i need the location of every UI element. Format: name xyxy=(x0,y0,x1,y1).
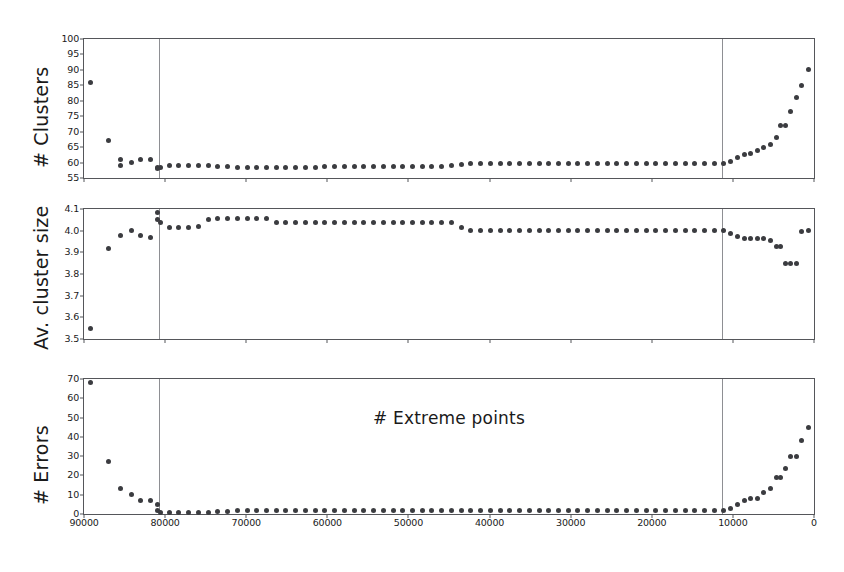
data-point xyxy=(225,509,230,514)
data-point xyxy=(371,164,376,169)
data-point xyxy=(235,216,240,221)
reference-vline xyxy=(722,39,723,178)
y-tick-label: 3.8 xyxy=(64,269,84,279)
y-axis-label-clusters: # Clusters xyxy=(30,67,52,168)
data-point xyxy=(459,162,464,167)
data-point xyxy=(391,508,396,513)
data-point xyxy=(167,163,172,168)
data-point xyxy=(186,163,191,168)
data-point xyxy=(468,228,473,233)
data-point xyxy=(371,508,376,513)
data-point xyxy=(429,508,434,513)
data-point xyxy=(755,236,760,241)
data-point xyxy=(129,228,134,233)
data-point xyxy=(332,164,337,169)
data-point xyxy=(634,228,639,233)
x-tick-mark xyxy=(165,178,166,182)
x-tick-mark xyxy=(732,178,733,182)
data-point xyxy=(778,475,783,480)
y-tick-label: 70 xyxy=(67,374,84,384)
data-point xyxy=(196,510,201,515)
data-point xyxy=(129,160,134,165)
data-point xyxy=(342,164,347,169)
data-point xyxy=(186,510,191,515)
data-point xyxy=(527,508,532,513)
data-point xyxy=(235,508,240,513)
y-tick-label: 3.7 xyxy=(64,291,84,301)
data-point xyxy=(293,508,298,513)
y-tick-label: 50 xyxy=(67,413,84,423)
data-point xyxy=(235,165,240,170)
data-point xyxy=(215,216,220,221)
y-axis-label-errors: # Errors xyxy=(30,425,52,505)
data-point xyxy=(129,492,134,497)
data-point xyxy=(783,123,788,128)
data-point xyxy=(748,236,753,241)
reference-vline xyxy=(159,379,160,514)
data-point xyxy=(692,228,697,233)
data-point xyxy=(644,508,649,513)
data-point xyxy=(507,228,512,233)
data-point xyxy=(478,508,483,513)
data-point xyxy=(167,225,172,230)
data-point xyxy=(352,220,357,225)
y-tick-label: 60 xyxy=(67,394,84,404)
data-point xyxy=(283,220,288,225)
data-point xyxy=(546,161,551,166)
data-point xyxy=(381,508,386,513)
data-point xyxy=(206,163,211,168)
data-point xyxy=(595,508,600,513)
data-point xyxy=(274,508,279,513)
data-point xyxy=(400,164,405,169)
data-point xyxy=(215,509,220,514)
data-point xyxy=(196,163,201,168)
data-point xyxy=(748,151,753,156)
data-point xyxy=(225,216,230,221)
data-point xyxy=(118,157,123,162)
data-point xyxy=(673,508,678,513)
data-point xyxy=(274,165,279,170)
data-point xyxy=(254,508,259,513)
data-point xyxy=(806,228,811,233)
data-point xyxy=(517,161,522,166)
data-point xyxy=(768,238,773,243)
x-tick-mark xyxy=(408,178,409,182)
y-tick-label: 3.5 xyxy=(64,334,84,344)
data-point xyxy=(768,486,773,491)
data-point xyxy=(498,161,503,166)
data-point xyxy=(313,220,318,225)
data-point xyxy=(332,508,337,513)
data-point xyxy=(215,164,220,169)
data-point xyxy=(634,508,639,513)
data-point xyxy=(653,228,658,233)
data-point xyxy=(575,228,580,233)
data-point xyxy=(400,508,405,513)
y-tick-label: 80 xyxy=(67,96,84,106)
data-point xyxy=(721,228,726,233)
data-point xyxy=(488,508,493,513)
data-point xyxy=(322,508,327,513)
data-point xyxy=(712,508,717,513)
x-tick-label: 90000 xyxy=(69,514,98,528)
data-point xyxy=(537,161,542,166)
reference-vline xyxy=(722,379,723,514)
data-point xyxy=(459,225,464,230)
x-tick-mark xyxy=(84,178,85,182)
data-point xyxy=(361,164,366,169)
plot-area-avg-cluster-size: 3.53.63.73.83.94.04.1 xyxy=(83,208,815,340)
data-point xyxy=(459,508,464,513)
data-point xyxy=(644,228,649,233)
data-point xyxy=(556,508,561,513)
data-point xyxy=(585,228,590,233)
data-point xyxy=(155,210,160,215)
x-tick-mark xyxy=(732,339,733,343)
x-tick-mark xyxy=(814,339,815,343)
data-point xyxy=(663,508,668,513)
data-point xyxy=(788,454,793,459)
data-point xyxy=(264,165,269,170)
y-tick-label: 90 xyxy=(67,65,84,75)
data-point xyxy=(283,165,288,170)
data-point xyxy=(799,229,804,234)
data-point xyxy=(546,508,551,513)
data-point xyxy=(106,246,111,251)
